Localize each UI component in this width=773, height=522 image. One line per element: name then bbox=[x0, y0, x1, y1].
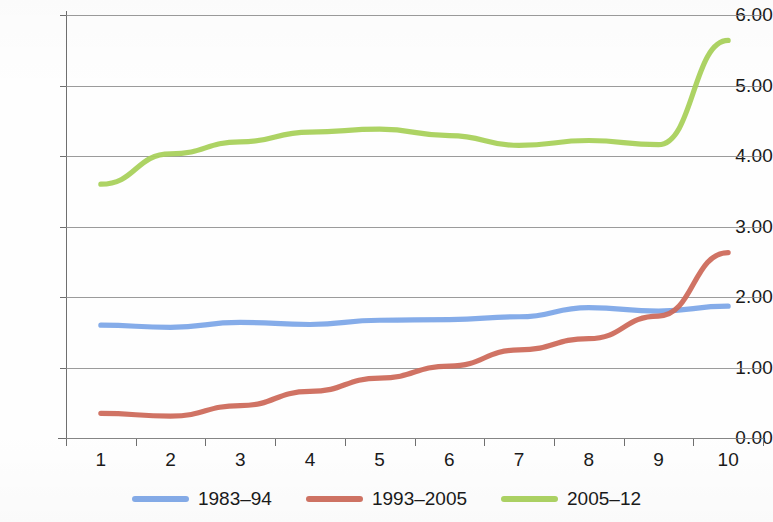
series-line bbox=[101, 40, 728, 184]
x-tick-label: 10 bbox=[693, 450, 763, 469]
x-tick-mark bbox=[693, 438, 694, 446]
legend-color-swatch bbox=[306, 496, 363, 502]
series-lines bbox=[66, 15, 763, 438]
x-tick-label: 3 bbox=[205, 450, 275, 469]
legend-item[interactable]: 1983–94 bbox=[132, 489, 272, 508]
chart-legend: 1983–941993–20052005–12 bbox=[0, 489, 773, 508]
x-tick-label: 1 bbox=[66, 450, 136, 469]
legend-item-label: 1983–94 bbox=[198, 489, 272, 508]
legend-item-label: 2005–12 bbox=[567, 489, 641, 508]
x-tick-mark bbox=[345, 438, 346, 446]
legend-color-swatch bbox=[501, 496, 558, 502]
x-tick-label: 5 bbox=[345, 450, 415, 469]
x-tick-mark bbox=[415, 438, 416, 446]
x-tick-mark bbox=[275, 438, 276, 446]
x-tick-mark bbox=[763, 438, 764, 446]
x-tick-mark bbox=[624, 438, 625, 446]
x-tick-mark bbox=[205, 438, 206, 446]
x-tick-label: 7 bbox=[484, 450, 554, 469]
series-line bbox=[101, 253, 728, 417]
x-tick-label: 9 bbox=[624, 450, 694, 469]
legend-item[interactable]: 2005–12 bbox=[501, 489, 641, 508]
x-tick-mark bbox=[554, 438, 555, 446]
x-tick-label: 2 bbox=[136, 450, 206, 469]
legend-item[interactable]: 1993–2005 bbox=[306, 489, 467, 508]
gridline-0.00 bbox=[66, 438, 763, 439]
x-tick-mark bbox=[484, 438, 485, 446]
x-tick-mark bbox=[66, 438, 67, 446]
series-line bbox=[101, 306, 728, 327]
x-tick-mark bbox=[136, 438, 137, 446]
legend-color-swatch bbox=[132, 496, 189, 502]
legend-item-label: 1993–2005 bbox=[372, 489, 467, 508]
x-tick-label: 6 bbox=[415, 450, 485, 469]
line-chart-figure: 0.001.002.003.004.005.006.00 12345678910… bbox=[0, 0, 773, 522]
plot-area bbox=[66, 15, 763, 438]
x-tick-label: 8 bbox=[554, 450, 624, 469]
x-tick-label: 4 bbox=[275, 450, 345, 469]
